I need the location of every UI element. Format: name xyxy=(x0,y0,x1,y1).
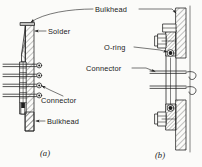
technical-drawing: Bulkhead Solder O-ring Connector Connect… xyxy=(0,0,202,167)
panel-a xyxy=(3,23,42,132)
caption-panel-b: (b) xyxy=(155,150,165,160)
connector-body-upper-b xyxy=(163,24,176,32)
label-connector-left: Connector xyxy=(41,96,77,105)
bulkhead-lower-a xyxy=(26,112,35,131)
feedthrough-barrel-b xyxy=(166,56,176,104)
wire-leads-b xyxy=(150,71,196,95)
connector-body-a xyxy=(20,62,26,114)
label-solder: Solder xyxy=(48,27,71,36)
panel-b xyxy=(150,6,196,152)
label-connector-right: Connector xyxy=(86,64,122,73)
label-bulkhead-top: Bulkhead xyxy=(95,5,127,14)
bulkhead-wall-b xyxy=(176,6,190,152)
flange-lower-b xyxy=(155,104,176,130)
connector-ferrule-a xyxy=(21,23,35,26)
label-bulkhead-bottom: Bulkhead xyxy=(47,117,79,126)
label-o-ring: O-ring xyxy=(104,43,125,52)
o-ring-b xyxy=(167,50,174,57)
solder-fillet-a xyxy=(22,26,26,62)
figure-canvas: Bulkhead Solder O-ring Connector Connect… xyxy=(0,0,202,167)
caption-panel-a: (a) xyxy=(40,148,50,158)
